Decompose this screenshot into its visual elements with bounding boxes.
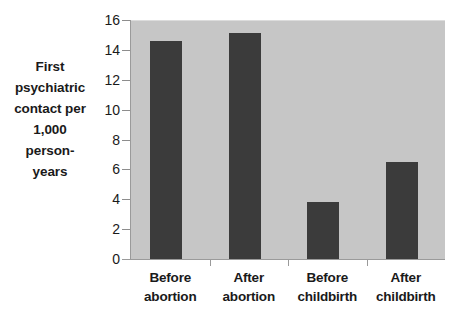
- x-axis-category-labels: BeforeabortionAfterabortionBeforechildbi…: [131, 268, 445, 318]
- y-axis-title-line: 1,000: [2, 119, 98, 140]
- x-axis-category-label: Afterchildbirth: [361, 268, 451, 306]
- y-axis-tick-label: 12: [96, 72, 120, 88]
- x-axis-category-label: Afterabortion: [204, 268, 295, 306]
- x-axis-category-label-line: childbirth: [361, 287, 451, 306]
- x-axis-category-label-line: Before: [125, 268, 216, 287]
- x-axis-category-label-line: Before: [282, 268, 373, 287]
- y-axis-tick-label: 14: [96, 42, 120, 58]
- bar: [229, 33, 261, 259]
- y-axis-line: [130, 20, 131, 260]
- y-axis-title-line: contact per: [2, 98, 98, 119]
- y-axis-tick-label: 8: [96, 132, 120, 148]
- x-axis-tick-mark: [367, 259, 368, 266]
- x-axis-tick-mark: [210, 259, 211, 266]
- y-axis-tick-labels: 1614121086420: [96, 20, 120, 259]
- y-axis-title-line: First: [2, 56, 98, 77]
- x-axis-tick-mark: [288, 259, 289, 266]
- y-axis-tick-label: 10: [96, 102, 120, 118]
- y-axis-tick-mark: [122, 50, 130, 51]
- y-axis-tick-mark: [122, 110, 130, 111]
- y-axis-tick-mark: [122, 169, 130, 170]
- y-axis-tick-mark: [122, 140, 130, 141]
- bar: [150, 41, 182, 259]
- bar-chart-figure: First psychiatric contact per 1,000 pers…: [0, 0, 451, 324]
- y-axis-title-line: person-: [2, 140, 98, 161]
- y-axis-title-line: years: [2, 161, 98, 182]
- x-axis-category-label-line: childbirth: [282, 287, 373, 306]
- y-axis-tick-label: 6: [96, 161, 120, 177]
- x-axis-category-label-line: After: [361, 268, 451, 287]
- x-axis-category-label: Beforechildbirth: [282, 268, 373, 306]
- x-axis-category-label-line: abortion: [125, 287, 216, 306]
- y-axis-tick-label: 0: [96, 251, 120, 267]
- x-axis-tick-marks: [131, 259, 445, 266]
- y-axis-tick-mark: [122, 229, 130, 230]
- y-axis-tick-marks: [122, 20, 130, 259]
- plot-area: [131, 20, 445, 259]
- bar: [386, 162, 418, 259]
- x-axis-category-label-line: After: [204, 268, 295, 287]
- x-axis-category-label: Beforeabortion: [125, 268, 216, 306]
- x-axis-category-label-line: abortion: [204, 287, 295, 306]
- y-axis-tick-label: 16: [96, 12, 120, 28]
- y-axis-tick-label: 2: [96, 221, 120, 237]
- bar-series: [131, 21, 445, 259]
- y-axis-tick-mark: [122, 80, 130, 81]
- y-axis-title-line: psychiatric: [2, 77, 98, 98]
- y-axis-tick-label: 4: [96, 191, 120, 207]
- y-axis-tick-mark: [122, 20, 130, 21]
- bar: [307, 202, 339, 259]
- y-axis-title: First psychiatric contact per 1,000 pers…: [2, 56, 98, 182]
- y-axis-tick-mark: [122, 199, 130, 200]
